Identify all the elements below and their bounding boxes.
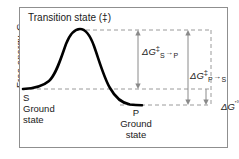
transition-state-label: Transition state (‡) [28,12,111,24]
substrate-symbol: S [23,92,55,103]
substrate-ground-text: Ground [23,103,55,114]
product-symbol: P [106,107,166,118]
free-energy-diagram-figure: Free energy, G [0,0,239,159]
delta-g-reverse-label: ΔG‡P→S [190,70,226,81]
arrow-glyph-reverse: → [213,72,222,81]
delta-g-forward-arrow [135,30,140,89]
g-symbol-forward: G [148,46,155,57]
product-ground-text: Ground [106,118,166,129]
substrate-ground-state-label: S Ground state [23,92,55,126]
subscript-s-forward: S [160,52,165,59]
product-state-text: state [106,129,166,140]
subscript-p-reverse: P [208,76,213,83]
g-symbol-reverse: G [196,70,203,81]
delta-g-standard-arrow [203,89,208,105]
arrow-glyph-forward: → [165,48,174,57]
prime-degree-standard: '° [235,99,239,108]
g-symbol-standard: G [227,101,234,112]
delta-g-forward-label: ΔG‡S→P [142,46,178,57]
plot-frame: Transition state (‡) S Ground state P Gr… [19,7,228,148]
subscript-s-reverse: S [222,76,227,83]
delta-g-reverse-arrow [185,30,190,105]
product-ground-state-label: P Ground state [106,107,166,141]
subscript-p-forward: P [174,52,179,59]
substrate-state-text: state [23,114,55,125]
delta-g-standard-label: ΔG'° [221,101,239,112]
